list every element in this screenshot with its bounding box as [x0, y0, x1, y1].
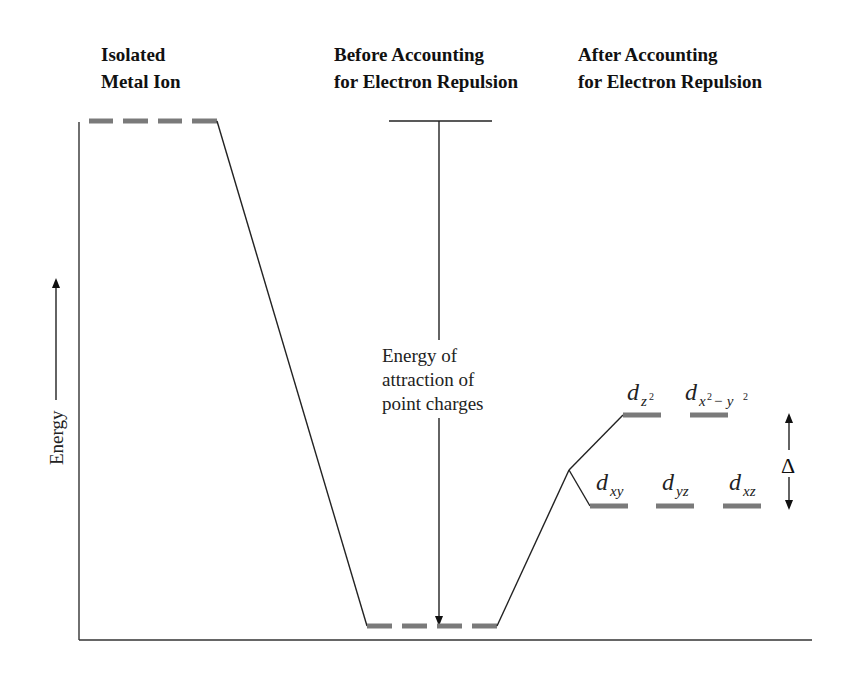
orbital-base: d — [627, 379, 640, 405]
crystal-field-diagram: Isolated Metal Ion Before Accounting for… — [0, 0, 853, 673]
header-line-1: Isolated — [101, 44, 166, 65]
orbital-base: d — [662, 469, 675, 495]
orbital-sub: xy — [609, 483, 624, 499]
header-after-repulsion: After Accounting for Electron Repulsion — [578, 44, 762, 92]
annotation-line: Energy of — [382, 345, 458, 366]
delta-symbol: Δ — [781, 453, 795, 478]
orbital-sub: z — [640, 393, 647, 409]
header-isolated-metal-ion: Isolated Metal Ion — [101, 44, 181, 92]
orbital-sup: 2 — [707, 391, 712, 402]
label-dx2-y2: d x 2 − y 2 — [685, 379, 748, 409]
splitting-delta: Δ — [781, 418, 795, 505]
header-line-1: Before Accounting — [334, 44, 485, 65]
orbital-sub: yz — [674, 483, 689, 499]
orbital-base: d — [729, 469, 742, 495]
orbital-sub: xz — [742, 483, 756, 499]
energy-label-text: Energy — [46, 410, 67, 465]
header-line-2: for Electron Repulsion — [334, 71, 518, 92]
header-line-2: for Electron Repulsion — [578, 71, 762, 92]
orbital-base: d — [685, 379, 698, 405]
annotation-line: point charges — [382, 393, 484, 414]
orbital-sub: − y — [713, 393, 734, 409]
header-line-1: After Accounting — [578, 44, 718, 65]
eg-levels: d z 2 d x 2 − y 2 — [623, 379, 748, 415]
orbital-sub: x — [698, 393, 706, 409]
annotation-line: attraction of — [382, 369, 475, 390]
orbital-sup: 2 — [649, 391, 654, 402]
connector-before-to-barycenter — [497, 470, 569, 626]
energy-axis-label: Energy — [46, 410, 67, 465]
attraction-annotation: Energy of attraction of point charges — [382, 345, 484, 414]
label-dz2: d z 2 — [627, 379, 654, 409]
orbital-base: d — [596, 469, 609, 495]
header-line-2: Metal Ion — [101, 71, 181, 92]
label-dxz: d xz — [729, 469, 756, 499]
t2g-levels: d xy d yz d xz — [590, 469, 761, 506]
connector-to-t2g — [569, 470, 590, 506]
label-dxy: d xy — [596, 469, 624, 499]
connector-isolated-to-before — [217, 121, 367, 626]
label-dyz: d yz — [662, 469, 689, 499]
orbital-sup: 2 — [743, 391, 748, 402]
connector-to-eg — [569, 415, 623, 470]
header-before-repulsion: Before Accounting for Electron Repulsion — [334, 44, 518, 92]
